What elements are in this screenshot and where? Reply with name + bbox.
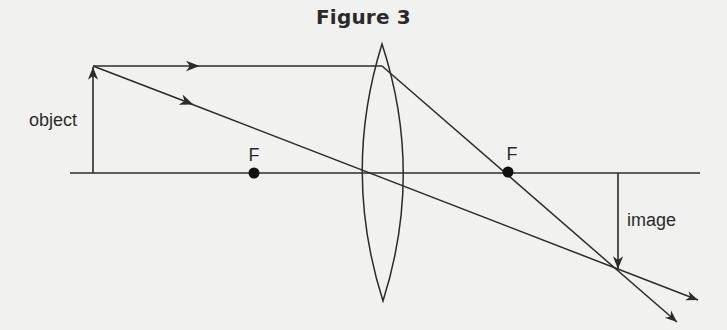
image-label: image [627, 210, 676, 230]
ray-diagram: F F object image [0, 0, 727, 330]
object-label: object [29, 110, 77, 130]
focal-point-right [503, 167, 514, 178]
center-ray-segment-1 [93, 66, 192, 104]
focal-point-left [249, 168, 260, 179]
focal-label-left: F [249, 145, 260, 165]
focal-label-right: F [507, 144, 518, 164]
refracted-ray [382, 66, 677, 322]
center-ray-segment-2 [190, 104, 698, 301]
